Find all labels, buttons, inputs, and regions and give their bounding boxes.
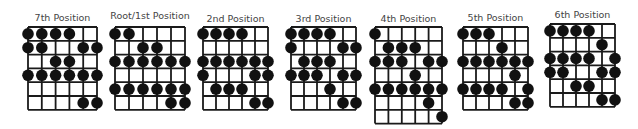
note-dot	[236, 28, 248, 40]
fretboard-grid	[198, 22, 273, 115]
note-dot	[596, 94, 608, 106]
note-dot	[285, 28, 297, 40]
note-dot	[596, 39, 608, 51]
note-dot	[509, 97, 521, 109]
note-dot	[262, 56, 274, 68]
note-dot	[337, 42, 349, 54]
note-dot	[483, 56, 495, 68]
note-dot	[197, 56, 209, 68]
note-dot	[151, 56, 163, 68]
note-dot	[396, 83, 408, 95]
note-dot	[262, 97, 274, 109]
note-dot	[285, 70, 297, 82]
note-dot	[557, 53, 569, 65]
note-dot	[369, 56, 381, 68]
note-dot	[36, 70, 48, 82]
fretboard-grid	[370, 22, 447, 129]
note-dot	[609, 53, 621, 65]
note-dot	[311, 56, 323, 68]
note-dot	[470, 56, 482, 68]
note-dot	[522, 56, 534, 68]
note-dot	[165, 83, 177, 95]
note-dot	[77, 70, 89, 82]
note-dot	[64, 28, 76, 40]
note-dot	[249, 97, 261, 109]
note-dot	[369, 28, 381, 40]
note-dot	[311, 70, 323, 82]
note-dot	[249, 70, 261, 82]
note-dot	[298, 70, 310, 82]
note-dot	[64, 70, 76, 82]
note-dot	[223, 28, 235, 40]
note-dot	[298, 28, 310, 40]
note-dot	[109, 56, 121, 68]
note-dot	[522, 83, 534, 95]
note-dot	[522, 97, 534, 109]
note-dot	[483, 28, 495, 40]
note-dot	[383, 56, 395, 68]
note-dot	[583, 25, 595, 37]
note-dot	[544, 25, 556, 37]
note-dot	[583, 80, 595, 92]
note-dot	[249, 56, 261, 68]
fretboard-grid	[110, 22, 190, 115]
note-dot	[496, 42, 508, 54]
fretboard-grid	[23, 22, 102, 115]
note-dot	[179, 83, 191, 95]
note-dot	[350, 97, 362, 109]
note-dot	[570, 80, 582, 92]
note-dot	[369, 83, 381, 95]
fretboard-grid	[286, 22, 361, 115]
note-dot	[423, 56, 435, 68]
note-dot	[91, 70, 103, 82]
note-dot	[223, 56, 235, 68]
note-dot	[409, 70, 421, 82]
note-dot	[457, 28, 469, 40]
note-dot	[483, 83, 495, 95]
note-dot	[337, 97, 349, 109]
note-dot	[470, 28, 482, 40]
note-dot	[311, 28, 323, 40]
note-dot	[423, 83, 435, 95]
note-dot	[77, 97, 89, 109]
note-dot	[436, 56, 448, 68]
note-dot	[151, 83, 163, 95]
note-dot	[50, 28, 62, 40]
note-dot	[570, 53, 582, 65]
note-dot	[123, 28, 135, 40]
note-dot	[22, 42, 34, 54]
note-dot	[409, 83, 421, 95]
note-dot	[210, 56, 222, 68]
note-dot	[137, 56, 149, 68]
note-dot	[457, 56, 469, 68]
note-dot	[383, 42, 395, 54]
note-dot	[22, 70, 34, 82]
note-dot	[436, 111, 448, 123]
note-dot	[396, 42, 408, 54]
note-dot	[36, 28, 48, 40]
note-dot	[123, 56, 135, 68]
note-dot	[544, 67, 556, 79]
note-dot	[324, 28, 336, 40]
note-dot	[223, 83, 235, 95]
note-dot	[350, 42, 362, 54]
note-dot	[324, 83, 336, 95]
note-dot	[36, 42, 48, 54]
note-dot	[77, 42, 89, 54]
fretboard-grid	[458, 22, 533, 115]
note-dot	[557, 67, 569, 79]
note-dot	[137, 42, 149, 54]
note-dot	[137, 83, 149, 95]
note-dot	[409, 42, 421, 54]
fretboard-grid	[545, 19, 620, 112]
diagram-title: Root/1st Position	[110, 10, 189, 21]
note-dot	[197, 70, 209, 82]
note-dot	[210, 83, 222, 95]
note-dot	[557, 25, 569, 37]
note-dot	[423, 97, 435, 109]
note-dot	[236, 56, 248, 68]
note-dot	[509, 56, 521, 68]
note-dot	[197, 28, 209, 40]
note-dot	[596, 67, 608, 79]
note-dot	[496, 56, 508, 68]
